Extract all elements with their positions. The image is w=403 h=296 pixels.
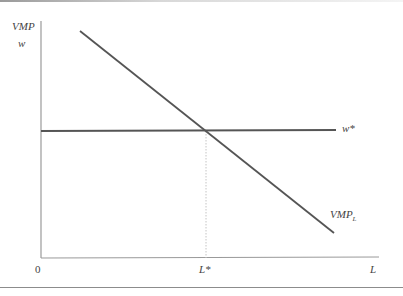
vmp-label-text: VMP [330, 208, 353, 220]
y-axis-label-w: w [18, 37, 25, 49]
origin-label: 0 [35, 263, 41, 275]
bottom-border [0, 287, 403, 288]
vmp-label-subscript: L [353, 215, 357, 223]
y-axis-label-vmp: VMP [12, 20, 35, 32]
vmp-line [80, 31, 334, 233]
x-tick-l-star: L* [199, 263, 211, 275]
x-axis [41, 257, 379, 258]
vmp-line-label: VMPL [330, 208, 357, 223]
wage-line-label: w* [342, 122, 355, 134]
chart-canvas [0, 0, 403, 296]
wage-line [41, 130, 336, 131]
x-axis-label: L [370, 263, 376, 275]
